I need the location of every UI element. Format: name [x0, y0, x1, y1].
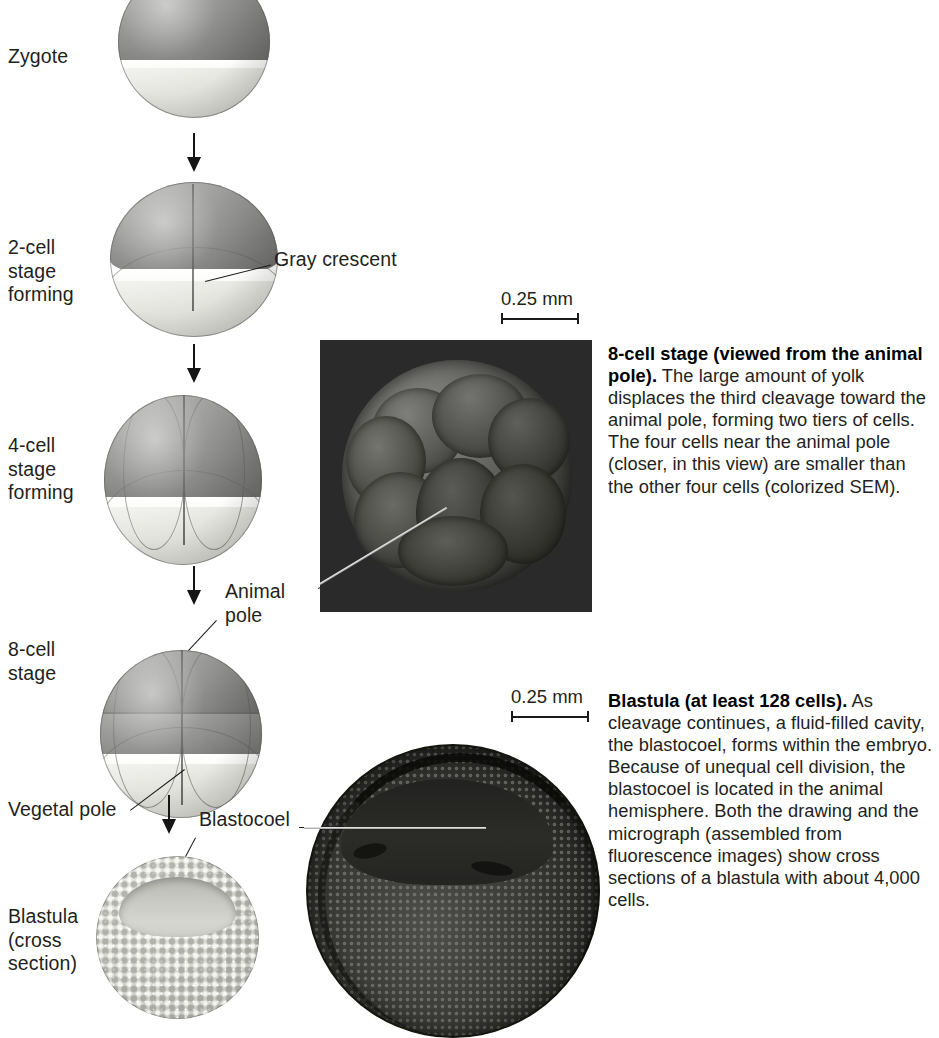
stage-label-blastula: Blastula (cross section) — [8, 905, 78, 976]
stage-label-8-cell: 8-cell stage — [8, 638, 56, 685]
animal-hemisphere — [118, 0, 270, 60]
blastula-scalebar-label: 0.25 mm — [511, 686, 589, 708]
stage-label-4-cell: 4-cell stage forming — [8, 434, 74, 505]
callout-animal-pole: Animal pole — [225, 580, 285, 627]
callout-blastocoel: Blastocoel — [199, 808, 290, 832]
blastula-micrograph — [306, 744, 600, 1038]
scalebar-tick-left — [511, 711, 513, 722]
four-cell-sphere — [104, 395, 262, 565]
blastula-cross-section-drawing — [96, 856, 259, 1019]
callout-vegetal-pole: Vegetal pole — [8, 798, 117, 822]
blastula-scalebar-rule — [511, 711, 589, 722]
vegetal-hemisphere — [118, 68, 270, 118]
sem-scalebar-rule — [501, 313, 579, 324]
scalebar-line — [511, 716, 589, 718]
four-cell-drawing — [104, 395, 262, 565]
scalebar-tick-right — [587, 711, 589, 722]
blastula-disc — [306, 744, 600, 1038]
stage-label-zygote: Zygote — [8, 45, 68, 69]
blastocoel-pointer-line — [304, 827, 486, 829]
stage-label-2-cell: 2-cell stage forming — [8, 236, 74, 307]
blastula-scalebar: 0.25 mm — [511, 686, 589, 722]
arrow-head — [187, 368, 201, 383]
blastula-caption-body: As cleavage continues, a fluid-filled ca… — [608, 690, 932, 910]
blastula-caption: Blastula (at least 128 cells). As cleava… — [608, 690, 934, 911]
two-cell-drawing — [110, 182, 278, 337]
blastula-caption-heading: Blastula (at least 128 cells). — [608, 690, 847, 711]
cleavage-furrow-arc — [104, 470, 262, 565]
eight-cell-caption: 8-cell stage (viewed from the animal pol… — [608, 343, 930, 498]
arrow-head — [187, 590, 201, 605]
sem-scalebar: 0.25 mm — [501, 288, 579, 324]
arrow-head — [162, 819, 176, 834]
scalebar-line — [501, 318, 579, 320]
arrow-head — [187, 157, 201, 172]
callout-gray-crescent: Gray crescent — [274, 248, 397, 272]
zygote-drawing — [118, 0, 270, 118]
eight-cell-sem-micrograph — [320, 340, 592, 612]
eight-cell-drawing — [100, 650, 262, 818]
blastula-body — [96, 856, 259, 1019]
scalebar-tick-left — [501, 313, 503, 324]
eight-cell-sphere — [100, 650, 262, 818]
zygote-sphere — [118, 0, 270, 118]
sem-scalebar-label: 0.25 mm — [501, 288, 579, 310]
equatorial-band — [118, 60, 270, 68]
two-cell-sphere — [110, 182, 278, 337]
cleavage-furrow-arc — [110, 247, 278, 337]
scalebar-tick-right — [577, 313, 579, 324]
